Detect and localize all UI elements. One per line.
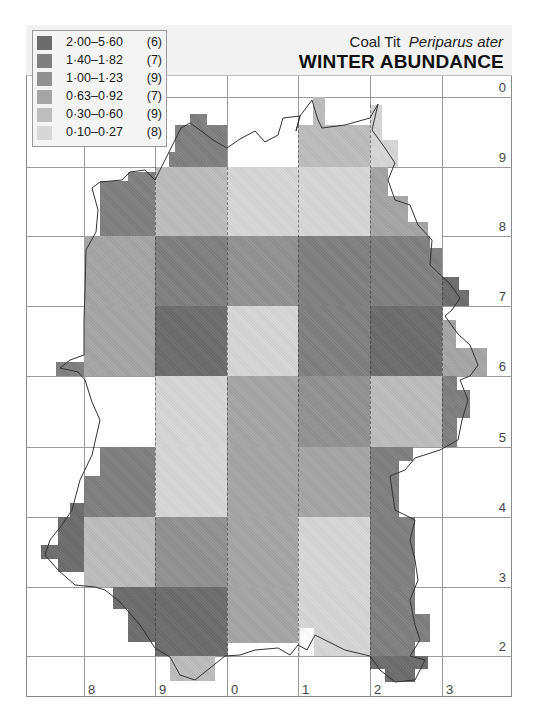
legend-swatch — [37, 72, 52, 86]
row-label: 6 — [499, 359, 506, 374]
row-label: 9 — [499, 150, 506, 165]
legend-count: (7) — [147, 53, 162, 67]
legend: 2·00–5·60 (6) 1·40–1·82 (7) 1·00–1·23 (9… — [32, 30, 167, 147]
legend-swatch — [37, 108, 52, 122]
col-label: 9 — [159, 682, 166, 697]
map-subtitle: WINTER ABUNDANCE — [299, 51, 504, 73]
legend-item: 2·00–5·60 (6) — [33, 34, 168, 52]
legend-item: 0·10–0·27 (8) — [33, 124, 168, 142]
col-label: 8 — [88, 682, 95, 697]
row-label: 5 — [499, 430, 506, 445]
legend-count: (9) — [147, 71, 162, 85]
legend-count: (7) — [147, 89, 162, 103]
legend-swatch — [37, 90, 52, 104]
legend-range: 0·30–0·60 — [66, 107, 123, 121]
legend-range: 1·00–1·23 — [66, 71, 123, 85]
row-label: 8 — [499, 219, 506, 234]
species-name: Coal Tit Periparus ater — [350, 33, 503, 50]
legend-item: 1·40–1·82 (7) — [33, 52, 168, 70]
legend-range: 2·00–5·60 — [66, 35, 123, 49]
col-label: 1 — [302, 682, 309, 697]
row-label: 0 — [499, 80, 506, 95]
row-label: 7 — [499, 289, 506, 304]
legend-swatch — [37, 126, 52, 140]
legend-count: (6) — [147, 35, 162, 49]
legend-swatch — [37, 54, 52, 68]
legend-range: 0·63–0·92 — [66, 89, 123, 103]
legend-item: 0·63–0·92 (7) — [33, 88, 168, 106]
row-label: 2 — [499, 639, 506, 654]
species-latin-name: Periparus ater — [409, 33, 503, 50]
row-label: 4 — [499, 500, 506, 515]
legend-count: (9) — [147, 107, 162, 121]
legend-count: (8) — [147, 125, 162, 139]
species-common-name: Coal Tit — [350, 33, 401, 50]
legend-range: 1·40–1·82 — [66, 53, 123, 67]
row-label: 3 — [499, 570, 506, 585]
col-label: 0 — [231, 682, 238, 697]
col-label: 2 — [374, 682, 381, 697]
legend-item: 1·00–1·23 (9) — [33, 70, 168, 88]
col-label: 3 — [446, 682, 453, 697]
legend-item: 0·30–0·60 (9) — [33, 106, 168, 124]
legend-swatch — [37, 36, 52, 50]
legend-range: 0·10–0·27 — [66, 125, 123, 139]
